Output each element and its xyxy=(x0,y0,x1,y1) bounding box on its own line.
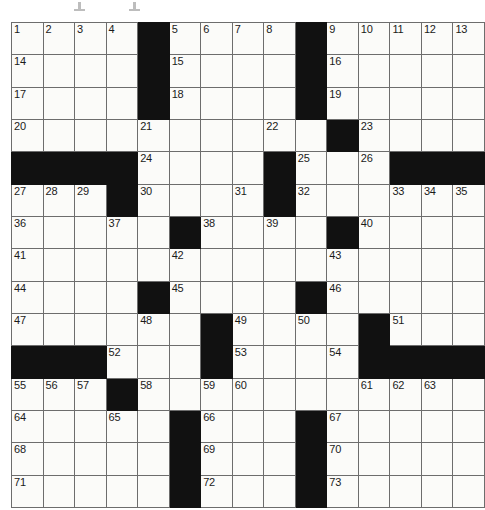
numbered-cell[interactable]: 35 xyxy=(453,184,485,216)
crossword-grid[interactable]: 1234567891011121314151617181920212223242… xyxy=(11,22,485,508)
entry-cell[interactable] xyxy=(358,443,390,475)
entry-cell[interactable] xyxy=(421,443,453,475)
entry-cell[interactable] xyxy=(43,119,75,151)
numbered-cell[interactable]: 17 xyxy=(12,87,44,119)
entry-cell[interactable] xyxy=(453,249,485,281)
entry-cell[interactable] xyxy=(264,313,296,345)
entry-cell[interactable] xyxy=(390,410,422,442)
numbered-cell[interactable]: 59 xyxy=(201,378,233,410)
entry-cell[interactable] xyxy=(169,313,201,345)
entry-cell[interactable] xyxy=(358,184,390,216)
entry-cell[interactable] xyxy=(106,475,138,507)
numbered-cell[interactable]: 73 xyxy=(327,475,359,507)
entry-cell[interactable] xyxy=(232,443,264,475)
numbered-cell[interactable]: 23 xyxy=(358,119,390,151)
numbered-cell[interactable]: 12 xyxy=(421,23,453,55)
numbered-cell[interactable]: 4 xyxy=(106,23,138,55)
entry-cell[interactable] xyxy=(358,281,390,313)
numbered-cell[interactable]: 18 xyxy=(169,87,201,119)
numbered-cell[interactable]: 52 xyxy=(106,346,138,378)
numbered-cell[interactable]: 70 xyxy=(327,443,359,475)
entry-cell[interactable] xyxy=(43,410,75,442)
numbered-cell[interactable]: 26 xyxy=(358,152,390,184)
entry-cell[interactable] xyxy=(75,410,107,442)
numbered-cell[interactable]: 53 xyxy=(232,346,264,378)
entry-cell[interactable] xyxy=(453,410,485,442)
entry-cell[interactable] xyxy=(232,152,264,184)
numbered-cell[interactable]: 7 xyxy=(232,23,264,55)
numbered-cell[interactable]: 57 xyxy=(75,378,107,410)
entry-cell[interactable] xyxy=(453,55,485,87)
entry-cell[interactable] xyxy=(453,378,485,410)
entry-cell[interactable] xyxy=(358,55,390,87)
entry-cell[interactable] xyxy=(138,346,170,378)
numbered-cell[interactable]: 8 xyxy=(264,23,296,55)
entry-cell[interactable] xyxy=(264,443,296,475)
entry-cell[interactable] xyxy=(421,281,453,313)
entry-cell[interactable] xyxy=(264,249,296,281)
entry-cell[interactable] xyxy=(106,313,138,345)
numbered-cell[interactable]: 11 xyxy=(390,23,422,55)
numbered-cell[interactable]: 37 xyxy=(106,216,138,248)
entry-cell[interactable] xyxy=(75,119,107,151)
numbered-cell[interactable]: 60 xyxy=(232,378,264,410)
entry-cell[interactable] xyxy=(201,281,233,313)
numbered-cell[interactable]: 15 xyxy=(169,55,201,87)
entry-cell[interactable] xyxy=(421,87,453,119)
numbered-cell[interactable]: 49 xyxy=(232,313,264,345)
entry-cell[interactable] xyxy=(453,216,485,248)
entry-cell[interactable] xyxy=(358,410,390,442)
numbered-cell[interactable]: 41 xyxy=(12,249,44,281)
entry-cell[interactable] xyxy=(75,249,107,281)
numbered-cell[interactable]: 30 xyxy=(138,184,170,216)
entry-cell[interactable] xyxy=(106,119,138,151)
entry-cell[interactable] xyxy=(358,249,390,281)
entry-cell[interactable] xyxy=(43,281,75,313)
entry-cell[interactable] xyxy=(106,281,138,313)
entry-cell[interactable] xyxy=(453,443,485,475)
numbered-cell[interactable]: 16 xyxy=(327,55,359,87)
entry-cell[interactable] xyxy=(390,249,422,281)
entry-cell[interactable] xyxy=(232,410,264,442)
numbered-cell[interactable]: 27 xyxy=(12,184,44,216)
entry-cell[interactable] xyxy=(43,55,75,87)
numbered-cell[interactable]: 62 xyxy=(390,378,422,410)
entry-cell[interactable] xyxy=(232,119,264,151)
entry-cell[interactable] xyxy=(453,87,485,119)
entry-cell[interactable] xyxy=(421,313,453,345)
numbered-cell[interactable]: 10 xyxy=(358,23,390,55)
entry-cell[interactable] xyxy=(138,475,170,507)
numbered-cell[interactable]: 29 xyxy=(75,184,107,216)
entry-cell[interactable] xyxy=(421,119,453,151)
numbered-cell[interactable]: 44 xyxy=(12,281,44,313)
entry-cell[interactable] xyxy=(295,249,327,281)
entry-cell[interactable] xyxy=(106,249,138,281)
numbered-cell[interactable]: 1 xyxy=(12,23,44,55)
entry-cell[interactable] xyxy=(43,443,75,475)
entry-cell[interactable] xyxy=(201,249,233,281)
numbered-cell[interactable]: 20 xyxy=(12,119,44,151)
numbered-cell[interactable]: 43 xyxy=(327,249,359,281)
entry-cell[interactable] xyxy=(106,87,138,119)
entry-cell[interactable] xyxy=(75,443,107,475)
entry-cell[interactable] xyxy=(390,55,422,87)
numbered-cell[interactable]: 14 xyxy=(12,55,44,87)
entry-cell[interactable] xyxy=(264,410,296,442)
entry-cell[interactable] xyxy=(43,475,75,507)
entry-cell[interactable] xyxy=(264,281,296,313)
entry-cell[interactable] xyxy=(264,378,296,410)
entry-cell[interactable] xyxy=(75,313,107,345)
numbered-cell[interactable]: 21 xyxy=(138,119,170,151)
entry-cell[interactable] xyxy=(169,378,201,410)
entry-cell[interactable] xyxy=(390,443,422,475)
entry-cell[interactable] xyxy=(421,55,453,87)
numbered-cell[interactable]: 38 xyxy=(201,216,233,248)
numbered-cell[interactable]: 68 xyxy=(12,443,44,475)
numbered-cell[interactable]: 25 xyxy=(295,152,327,184)
numbered-cell[interactable]: 46 xyxy=(327,281,359,313)
entry-cell[interactable] xyxy=(169,184,201,216)
entry-cell[interactable] xyxy=(390,87,422,119)
numbered-cell[interactable]: 65 xyxy=(106,410,138,442)
entry-cell[interactable] xyxy=(421,249,453,281)
numbered-cell[interactable]: 51 xyxy=(390,313,422,345)
